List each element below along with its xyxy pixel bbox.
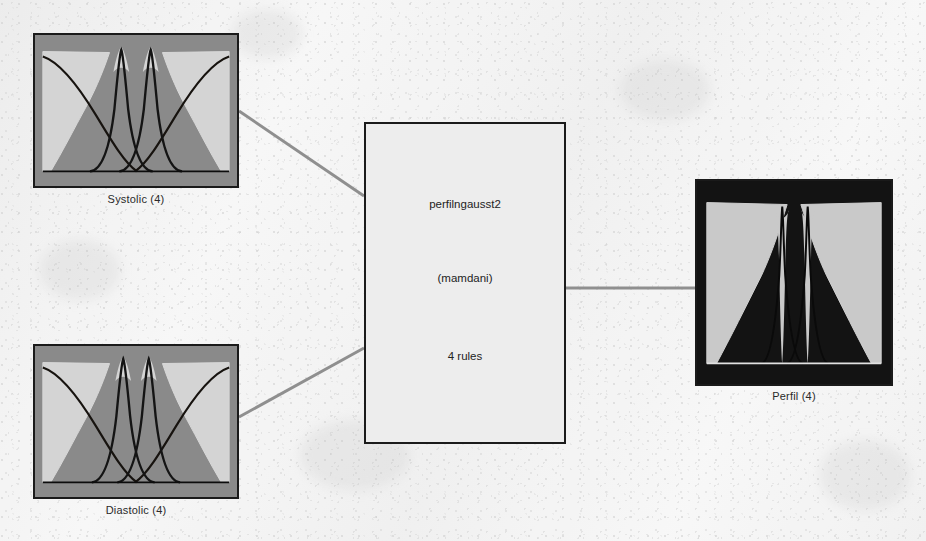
scan-smudge — [620, 60, 710, 120]
input-variable-diastolic-label: Diastolic (4) — [33, 504, 239, 516]
scan-smudge — [232, 10, 302, 58]
connector-systolic-to-fis — [239, 111, 364, 196]
fis-inference-type: (mamdani) — [366, 272, 564, 284]
systolic-mf1-shoulder-left — [43, 52, 110, 172]
input-variable-systolic-label: Systolic (4) — [33, 193, 239, 205]
output-variable-perfil[interactable]: Perfil (4) — [695, 179, 893, 406]
systolic-membership-curves — [35, 35, 237, 186]
scan-smudge — [40, 240, 120, 300]
fis-rule-count: 4 rules — [366, 350, 564, 362]
input-variable-systolic[interactable]: Systolic (4) — [33, 33, 239, 208]
fis-system-name: perfilngausst2 — [366, 198, 564, 210]
perfil-mf-plot[interactable] — [695, 179, 893, 386]
perfil-mf1-shoulder-left — [707, 203, 787, 364]
fis-diagram-canvas: Systolic (4) Diastolic (4) perfilngausst… — [0, 0, 926, 541]
diastolic-mf1-shoulder-left — [43, 363, 110, 483]
diastolic-membership-curves — [35, 346, 237, 497]
systolic-mf4-shoulder-right — [162, 52, 229, 172]
diastolic-mf4-shoulder-right — [162, 363, 229, 483]
scan-smudge — [820, 440, 910, 510]
perfil-mf4-shoulder-right — [801, 203, 881, 364]
connector-diastolic-to-fis — [239, 348, 364, 417]
diastolic-mf-plot[interactable] — [33, 344, 239, 499]
systolic-mf-plot[interactable] — [33, 33, 239, 188]
fis-system-block[interactable]: perfilngausst2 (mamdani) 4 rules — [364, 122, 566, 444]
input-variable-diastolic[interactable]: Diastolic (4) — [33, 344, 239, 519]
output-variable-perfil-label: Perfil (4) — [695, 390, 893, 402]
perfil-membership-curves — [697, 181, 891, 384]
